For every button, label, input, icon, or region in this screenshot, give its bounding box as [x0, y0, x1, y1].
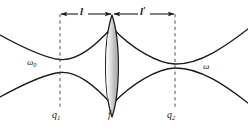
- lower-envelope-input-curve: [0, 72, 112, 104]
- object-plane-label: q1: [52, 110, 60, 121]
- lower-envelope-output-curve: [112, 68, 248, 105]
- figure-canvas: [0, 0, 248, 132]
- image-distance-label: l′: [140, 6, 146, 17]
- upper-envelope-input-curve: [0, 28, 112, 60]
- biconvex-lens-shape: [106, 15, 119, 117]
- image-plane-label: q2: [167, 110, 175, 121]
- focal-length-label: f: [108, 110, 111, 120]
- object-distance-label: l: [80, 6, 83, 17]
- input-waist-label: ω0: [27, 58, 36, 68]
- beam-envelope-group: [0, 28, 248, 105]
- lens-group: [106, 15, 119, 117]
- upper-envelope-output-curve: [112, 28, 248, 65]
- gaussian-beam-figure: ω0 ω q1 q2 f l l′: [0, 0, 248, 132]
- output-waist-label: ω: [203, 62, 209, 71]
